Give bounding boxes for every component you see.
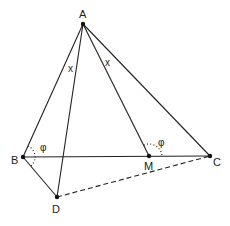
angle-label-x-bad: x bbox=[68, 63, 73, 74]
point-m bbox=[147, 154, 151, 158]
segment-bd bbox=[23, 157, 57, 197]
angle-label-phi-b: φ bbox=[40, 142, 47, 153]
label-m: M bbox=[144, 160, 153, 172]
angle-label-x-mac: x bbox=[105, 57, 110, 68]
angle-label-phi-m: φ bbox=[158, 137, 165, 148]
label-d: D bbox=[52, 203, 60, 215]
segment-ad bbox=[57, 24, 83, 197]
segment-bc bbox=[23, 156, 210, 157]
segment-am bbox=[83, 24, 149, 156]
segment-ac bbox=[83, 24, 210, 156]
label-c: C bbox=[213, 156, 221, 168]
point-b bbox=[21, 155, 25, 159]
point-d bbox=[55, 195, 59, 199]
label-b: B bbox=[11, 154, 18, 166]
label-a: A bbox=[79, 8, 87, 20]
geometry-diagram: A B C M D x x φ φ bbox=[0, 0, 230, 226]
angle-arc-b bbox=[28, 146, 35, 166]
segment-ab bbox=[23, 24, 83, 157]
point-a bbox=[81, 22, 85, 26]
point-c bbox=[208, 154, 212, 158]
segment-dc-dashed bbox=[57, 156, 210, 197]
